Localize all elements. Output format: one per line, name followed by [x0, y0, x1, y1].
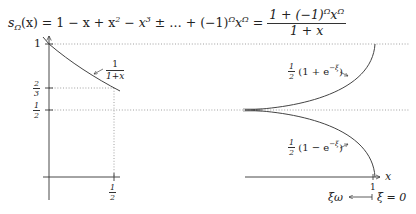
y-tick-two-thirds: 2 3 — [33, 80, 40, 98]
xi-omega-label: ξω — [328, 191, 343, 204]
y-tick-1: 1 — [34, 37, 41, 50]
lower-curve-label: 12 (1 − e−ξ) — [288, 139, 343, 157]
right-x-axis-label: x — [385, 170, 391, 183]
y-tick-one-half: 1 2 — [33, 102, 40, 120]
xi-zero-label: ξ = 0 — [377, 191, 406, 204]
upper-curve-label: 12 (1 + e−ξ) — [288, 63, 343, 81]
curve-label-1-over-1-plus-x: 1 1+x — [106, 60, 124, 81]
right-x-tick-1: 1 — [370, 182, 376, 192]
diagram-canvas — [0, 0, 416, 214]
x-tick-one-half: 1 2 — [109, 184, 116, 202]
